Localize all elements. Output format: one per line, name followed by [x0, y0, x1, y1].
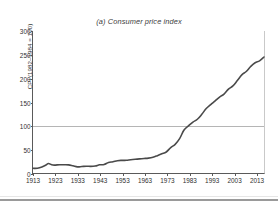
- y-tick-label: 300: [5, 28, 31, 35]
- x-tick-mark: [100, 173, 101, 176]
- x-tick-label: 1963: [138, 177, 152, 184]
- chart-title: (a) Consumer price index: [8, 17, 270, 26]
- chart-card: (a) Consumer price index CPI (1982–1984 …: [8, 12, 270, 192]
- x-tick-label: 1983: [183, 177, 197, 184]
- x-tick-label: 2013: [250, 177, 264, 184]
- x-tick-label: 1913: [26, 177, 40, 184]
- y-tick-label: 200: [5, 75, 31, 82]
- x-tick-mark: [257, 173, 258, 176]
- x-tick-label: 1993: [205, 177, 219, 184]
- x-tick-label: 2003: [228, 177, 242, 184]
- x-tick-label: 1953: [116, 177, 130, 184]
- x-tick-mark: [167, 173, 168, 176]
- cpi-line-path: [33, 57, 264, 168]
- plot-area: CPI (1982–1984 = 100) 050100150200250300…: [32, 31, 265, 174]
- x-tick-label: 1973: [160, 177, 174, 184]
- x-tick-mark: [190, 173, 191, 176]
- cpi-series-line: [33, 31, 264, 173]
- x-tick-mark: [123, 173, 124, 176]
- figure-root: (a) Consumer price index CPI (1982–1984 …: [0, 0, 278, 208]
- x-tick-mark: [212, 173, 213, 176]
- y-tick-label: 150: [5, 99, 31, 106]
- x-tick-mark: [55, 173, 56, 176]
- x-tick-mark: [78, 173, 79, 176]
- x-tick-label: 1943: [93, 177, 107, 184]
- x-tick-label: 1933: [71, 177, 85, 184]
- cut-off-header-text: [10, 0, 268, 7]
- y-tick-label: 100: [5, 123, 31, 130]
- x-tick-mark: [33, 173, 34, 176]
- y-tick-label: 50: [5, 147, 31, 154]
- x-tick-mark: [145, 173, 146, 176]
- x-tick-label: 1923: [48, 177, 62, 184]
- page-rule-soft: [0, 196, 278, 197]
- page-bottom-rule: [0, 199, 278, 201]
- x-tick-mark: [235, 173, 236, 176]
- y-tick-label: 250: [5, 51, 31, 58]
